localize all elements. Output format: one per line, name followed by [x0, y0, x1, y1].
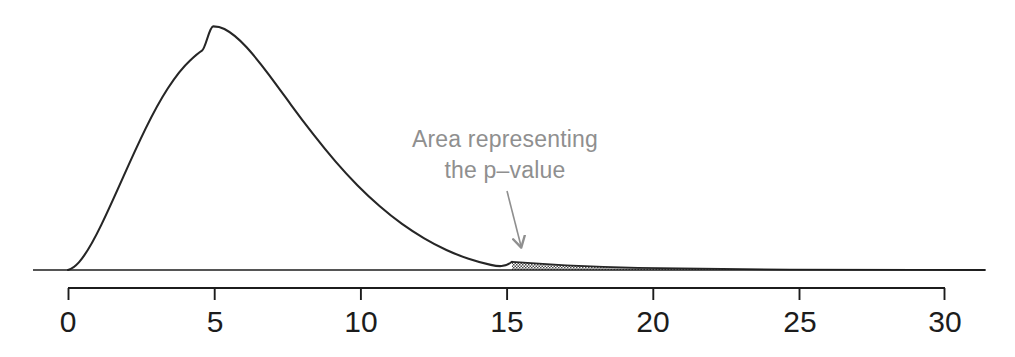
annotation-text-line-2: the p–value: [380, 155, 630, 186]
x-tick-label-10: 10: [331, 305, 391, 339]
x-tick-label-5: 5: [185, 305, 245, 339]
annotation-text-line-1: Area representing: [380, 124, 630, 155]
x-tick-label-15: 15: [477, 305, 537, 339]
x-tick-label-25: 25: [770, 305, 830, 339]
x-tick-label-30: 30: [915, 305, 975, 339]
x-tick-label-20: 20: [623, 305, 683, 339]
x-tick-label-0: 0: [38, 305, 98, 339]
